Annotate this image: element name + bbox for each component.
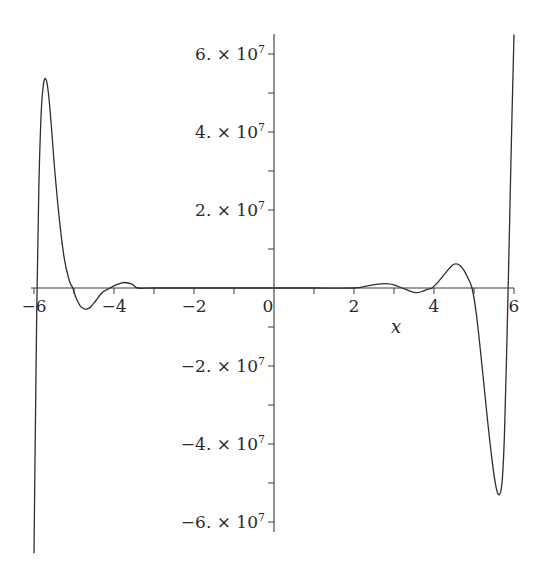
- axes: [31, 34, 514, 532]
- x-tick-label: −2: [181, 296, 206, 316]
- x-tick-label: 2: [349, 296, 360, 316]
- x-tick-label: 0: [263, 296, 274, 316]
- y-tick-label: 6. × 107: [195, 43, 265, 64]
- y-tick-label: −4. × 107: [181, 433, 265, 454]
- y-tick-label: 2. × 107: [195, 199, 265, 220]
- x-axis-label: x: [391, 316, 401, 337]
- x-tick-label: 4: [429, 296, 440, 316]
- x-tick-label: −4: [101, 296, 126, 316]
- x-tick-label: 6: [509, 296, 520, 316]
- x-tick-label: −6: [21, 296, 46, 316]
- plot-area: −6−4−202466. × 1074. × 1072. × 107−2. × …: [0, 0, 543, 568]
- y-tick-label: −2. × 107: [181, 355, 265, 376]
- y-tick-label: 4. × 107: [195, 121, 265, 142]
- y-tick-label: −6. × 107: [181, 511, 265, 532]
